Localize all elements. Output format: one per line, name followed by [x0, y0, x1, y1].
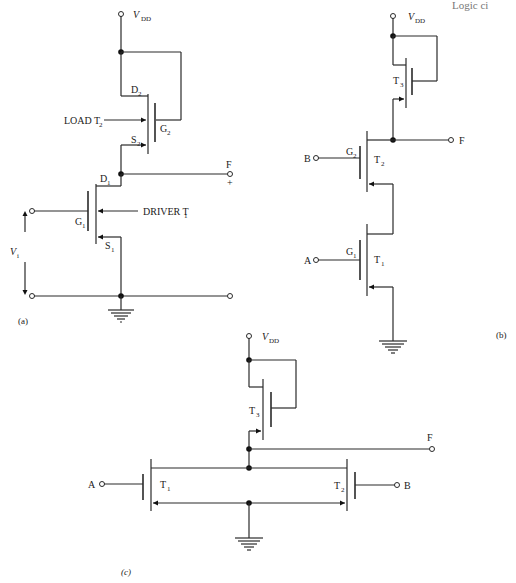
svg-text:2: 2: [137, 140, 141, 148]
input-b-terminal-b: [314, 156, 319, 161]
svg-text:DD: DD: [269, 337, 279, 345]
vdd-terminal-a: [119, 12, 124, 17]
svg-text:F: F: [459, 135, 465, 146]
svg-text:A: A: [304, 255, 312, 266]
ground-icon: [235, 538, 263, 550]
input-b-terminal-c: [395, 483, 400, 488]
svg-text:i: i: [17, 252, 19, 260]
svg-text:2: 2: [138, 90, 142, 98]
circuit-diagram: Logic ci V DD LOAD T 2 D 2 G 2 S 2: [0, 0, 516, 583]
svg-text:1: 1: [167, 485, 171, 493]
caption-a: (a): [18, 316, 28, 326]
svg-text:S: S: [131, 134, 137, 145]
header-fragment: Logic ci: [452, 0, 488, 11]
panel-c: V DD T 3 F A T 1 B T 2: [88, 331, 435, 577]
output-f-terminal-a: [228, 172, 233, 177]
vdd-terminal-b: [391, 14, 396, 19]
svg-text:S: S: [105, 240, 111, 251]
svg-text:F: F: [427, 432, 433, 443]
svg-text:1: 1: [381, 260, 385, 268]
output-f-terminal-b: [449, 138, 454, 143]
svg-text:1: 1: [82, 222, 86, 230]
svg-text:F: F: [226, 159, 232, 170]
svg-text:T: T: [374, 154, 380, 165]
svg-text:1: 1: [353, 252, 357, 260]
svg-text:B: B: [304, 153, 311, 164]
svg-text:3: 3: [256, 411, 260, 419]
caption-c: (c): [121, 567, 131, 577]
input-a-terminal-c: [100, 482, 105, 487]
svg-text:2: 2: [341, 486, 345, 494]
panel-a: V DD LOAD T 2 D 2 G 2 S 2 F +: [10, 9, 233, 326]
svg-text:T: T: [334, 480, 340, 491]
svg-text:T: T: [393, 75, 399, 86]
ground-icon: [379, 341, 407, 353]
panel-b: V DD T 3 F B G 2 T 2: [304, 11, 507, 353]
svg-text:2: 2: [381, 160, 385, 168]
svg-text:LOAD T: LOAD T: [64, 115, 100, 126]
vdd-terminal-c: [247, 334, 252, 339]
svg-text:2: 2: [167, 129, 171, 137]
svg-text:3: 3: [400, 81, 404, 89]
svg-text:V: V: [133, 9, 141, 20]
input-a-terminal-b: [314, 258, 319, 263]
ground-icon: [108, 296, 134, 322]
caption-b: (b): [496, 330, 507, 340]
svg-text:T: T: [160, 479, 166, 490]
svg-text:DD: DD: [141, 15, 151, 23]
svg-text:DD: DD: [415, 17, 425, 25]
svg-text:1: 1: [111, 246, 115, 254]
svg-text:A: A: [88, 479, 96, 490]
svg-text:B: B: [404, 480, 411, 491]
svg-text:T: T: [249, 405, 255, 416]
ground-terminal-right-a: [228, 294, 233, 299]
output-f-terminal-c: [430, 447, 435, 452]
svg-text:2: 2: [99, 121, 103, 129]
input-terminal-a: [30, 209, 35, 214]
svg-text:2: 2: [353, 152, 357, 160]
svg-text:DRIVER T: DRIVER T: [143, 206, 189, 217]
ground-terminal-left-a: [30, 294, 35, 299]
svg-text:+: +: [227, 177, 233, 188]
svg-text:1: 1: [184, 212, 188, 220]
svg-text:1: 1: [107, 179, 111, 187]
svg-text:T: T: [374, 254, 380, 265]
